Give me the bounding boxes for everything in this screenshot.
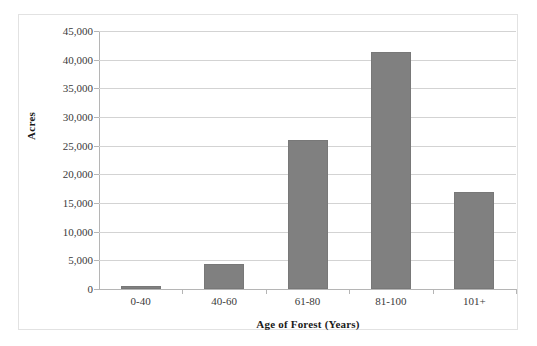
y-axis-tick-label: 25,000	[27, 141, 93, 152]
bar	[204, 264, 244, 289]
y-axis-tick-mark	[94, 31, 99, 32]
bars-series	[99, 31, 516, 289]
y-axis-tick-label: 5,000	[27, 255, 93, 266]
bar	[371, 52, 411, 289]
y-axis-tick-mark	[94, 289, 99, 290]
y-axis-tick-label: 45,000	[27, 26, 93, 37]
y-axis-tick-label: 10,000	[27, 227, 93, 238]
y-axis-tick-mark	[94, 117, 99, 118]
x-axis-tick-label: 101+	[424, 296, 524, 307]
y-axis-tick-mark	[94, 88, 99, 89]
x-axis-line	[99, 289, 517, 290]
y-axis-tick-mark	[94, 260, 99, 261]
x-axis-tick-mark	[516, 290, 517, 294]
x-axis-title: Age of Forest (Years)	[99, 318, 517, 330]
x-axis-tick-mark	[349, 290, 350, 294]
y-axis-tick-label: 20,000	[27, 169, 93, 180]
bar	[288, 140, 328, 289]
y-axis-tick-mark	[94, 146, 99, 147]
y-axis-tick-label: 40,000	[27, 55, 93, 66]
y-axis-tick-labels: 05,00010,00015,00020,00025,00030,00035,0…	[19, 15, 93, 315]
x-axis-tick-mark	[266, 290, 267, 294]
y-axis-tick-label: 35,000	[27, 83, 93, 94]
bar	[454, 192, 494, 289]
y-axis-title: Acres	[25, 112, 37, 140]
x-axis-tick-mark	[182, 290, 183, 294]
chart-figure: 05,00010,00015,00020,00025,00030,00035,0…	[18, 14, 518, 330]
y-axis-tick-mark	[94, 60, 99, 61]
y-axis-tick-mark	[94, 203, 99, 204]
y-axis-tick-mark	[94, 174, 99, 175]
y-axis-tick-label: 15,000	[27, 198, 93, 209]
y-axis-tick-mark	[94, 232, 99, 233]
y-axis-tick-label: 0	[27, 284, 93, 295]
plot-area	[99, 31, 516, 289]
x-axis-tick-mark	[433, 290, 434, 294]
